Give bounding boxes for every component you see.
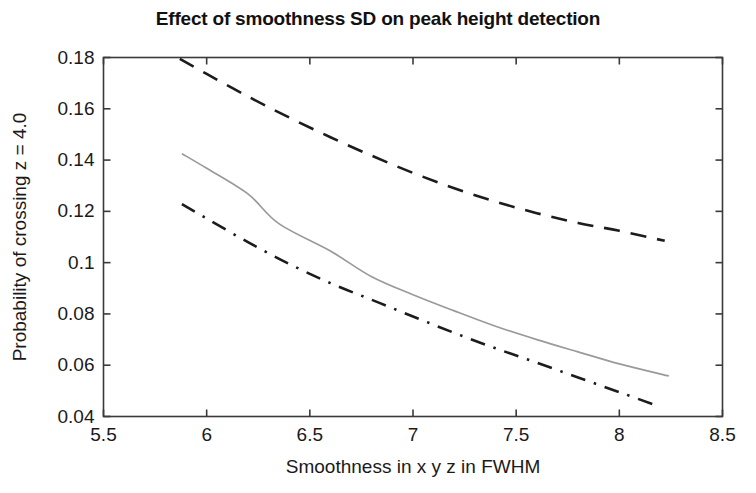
- axis-frame: [104, 58, 723, 417]
- x-axis-ticks: [104, 58, 723, 417]
- y-tick-label: 0.06: [58, 354, 95, 375]
- x-tick-label: 8: [614, 424, 625, 445]
- x-tick-label: 5.5: [90, 424, 116, 445]
- x-tick-label: 8.5: [709, 424, 735, 445]
- x-axis-title: Smoothness in x y z in FWHM: [286, 456, 540, 477]
- y-tick-label: 0.12: [58, 200, 95, 221]
- series-line-middle: [182, 154, 669, 376]
- y-tick-label: 0.16: [58, 98, 95, 119]
- series-line-lower: [182, 204, 661, 407]
- y-axis-ticks: [104, 58, 723, 417]
- y-tick-label: 0.14: [58, 149, 95, 170]
- y-axis-tick-labels: 0.040.060.080.10.120.140.160.18: [58, 47, 95, 427]
- x-tick-label: 7.5: [503, 424, 529, 445]
- y-tick-label: 0.08: [58, 303, 95, 324]
- plot-canvas: 5.566.577.588.5 0.040.060.080.10.120.140…: [0, 0, 756, 493]
- x-axis-tick-labels: 5.566.577.588.5: [90, 424, 735, 445]
- x-tick-label: 7: [408, 424, 419, 445]
- y-tick-label: 0.04: [58, 406, 95, 427]
- y-tick-label: 0.1: [68, 252, 94, 273]
- x-tick-label: 6: [201, 424, 212, 445]
- y-axis-title: Probability of crossing z = 4.0: [9, 113, 30, 362]
- x-tick-label: 6.5: [297, 424, 323, 445]
- y-tick-label: 0.18: [58, 47, 95, 68]
- data-series-group: [180, 59, 669, 407]
- series-line-upper: [180, 59, 665, 241]
- chart-figure: Effect of smoothness SD on peak height d…: [0, 0, 756, 493]
